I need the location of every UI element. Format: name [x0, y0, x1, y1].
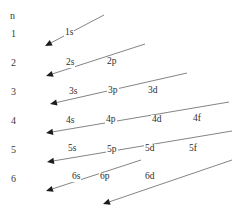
arrow-head — [46, 71, 54, 77]
n-row-label: 3 — [11, 87, 16, 97]
arrow-head — [50, 99, 58, 105]
n-row-label: 2 — [11, 58, 16, 68]
orbital-label-5p: 5p — [106, 145, 118, 155]
arrow-2s-2p — [46, 44, 145, 77]
arrow-shaft — [54, 131, 232, 161]
aufbau-diagram: n 123456 1s2s2p3s3p3d4s4p4d4f5s5p5d5f6s6… — [0, 0, 241, 214]
orbital-label-3p: 3p — [107, 86, 119, 96]
orbital-label-4p: 4p — [105, 115, 117, 125]
arrow-6s — [46, 160, 141, 192]
arrow-6p-6d — [103, 160, 232, 205]
arrow-shaft — [53, 102, 229, 132]
orbital-label-6d: 6d — [144, 172, 156, 182]
arrow-shaft — [53, 160, 141, 189]
arrow-1s — [45, 15, 104, 46]
arrow-head — [103, 199, 111, 205]
arrow-head — [46, 129, 53, 135]
orbital-label-3d: 3d — [147, 86, 159, 96]
arrow-layer — [0, 0, 241, 214]
arrow-head — [47, 158, 54, 164]
n-row-label: 5 — [11, 145, 16, 155]
arrow-head — [45, 40, 53, 46]
n-axis-header: n — [10, 11, 15, 21]
orbital-label-6p: 6p — [99, 172, 111, 182]
orbital-label-5s: 5s — [67, 144, 77, 154]
orbital-label-6s: 6s — [71, 172, 81, 182]
orbital-label-2s: 2s — [65, 58, 75, 68]
orbital-label-3s: 3s — [68, 87, 78, 97]
orbital-label-2p: 2p — [106, 57, 118, 67]
arrow-head — [46, 186, 54, 192]
orbital-label-1s: 1s — [64, 28, 74, 38]
n-row-label: 6 — [11, 174, 16, 184]
orbital-label-5f: 5f — [188, 144, 198, 154]
arrow-shaft — [110, 160, 232, 202]
orbital-label-4s: 4s — [65, 116, 75, 126]
n-row-label: 1 — [11, 29, 16, 39]
orbital-label-5d: 5d — [144, 144, 156, 154]
orbital-label-4f: 4f — [192, 114, 202, 124]
orbital-label-4d: 4d — [151, 115, 163, 125]
n-row-label: 4 — [11, 116, 16, 126]
arrow-shaft — [51, 15, 104, 43]
